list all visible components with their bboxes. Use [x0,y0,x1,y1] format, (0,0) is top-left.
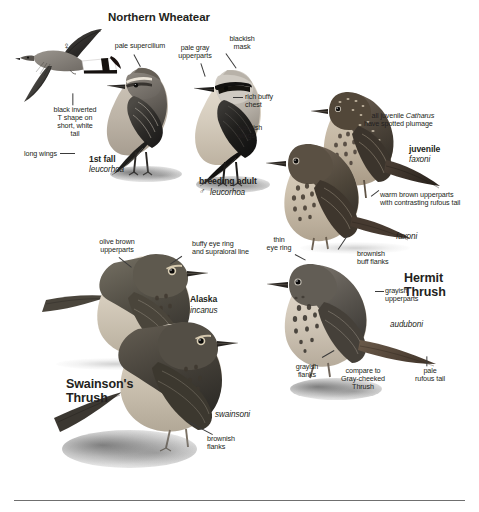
annotation-grayish-upperparts: grayish upperparts [385,287,418,303]
annotation-brownish-flanks: brownish flanks [207,435,235,451]
female-symbol: ♀ [63,41,70,52]
page-title: Northern Wheatear [108,11,210,24]
bird-hermit-thrush-faxoni [256,128,416,252]
annotation-pale-gray-upperparts: pale gray upperparts [168,44,222,60]
annotation-compare-gray-cheeked: compare to Gray-cheeked Thrush [329,367,397,391]
label-faxoni-subspecies: faxoni [396,232,417,241]
label-swainsoni-subspecies: swainsoni [215,410,250,419]
label-breeding-adult-age: breeding adult [199,177,257,187]
bird-hermit-thrush-auduboni [262,250,442,380]
annotation-buffy-eye-ring: buffy eye ring and supraloral line [192,240,249,256]
label-auduboni-subspecies: auduboni [390,320,423,329]
leader-line-buffy-chest [233,97,243,98]
annotation-rich-buffy-chest: rich buffy chest [245,93,273,109]
label-first-fall-subspecies: leucorhoa [89,165,124,174]
page-divider-rule [14,500,465,501]
perch-ground-swainsoni [62,430,197,468]
annotation-long-wings: long wings [24,150,57,158]
leader-line-grayish-upperparts [375,291,384,292]
label-first-fall-age: 1st fall [89,155,115,165]
label-breeding-adult-sex: ♂ [199,187,205,197]
annotation-pale-supercilium: pale supercilium [104,42,176,50]
leader-line-pale-rufous-tail [427,356,428,366]
annotation-blackish-mask: blackish mask [220,35,264,51]
leader-line-tail-note [73,93,74,105]
label-alaska-region: Alaska [190,295,217,305]
leader-line-long-wings [60,153,75,154]
annotation-olive-brown-upperparts: olive brown upperparts [88,238,146,254]
field-guide-plate: Northern Wheatear [0,0,479,512]
annotation-pale-rufous-tail: pale rufous tail [404,367,456,383]
label-breeding-adult-subspecies: leucorhoa [210,188,245,197]
annotation-grayish-flanks: grayish flanks [286,363,328,379]
annotation-juvenile-plumage-b: have spotted plumage [364,119,433,128]
species-heading-swainsons-thrush: Swainson's Thrush [66,378,133,405]
